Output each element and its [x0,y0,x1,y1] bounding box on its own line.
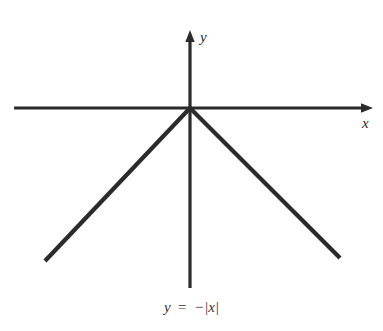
caption-expression: −|x| [194,299,219,315]
graph-figure: y x y = −|x| [0,0,383,331]
y-axis [185,30,194,288]
curve-path [45,108,340,261]
curve-y-equals-neg-abs-x [45,108,340,261]
caption-variable-y: y [164,299,171,315]
x-axis-arrow-icon [361,103,373,112]
figure-caption: y = −|x| [0,300,383,315]
caption-equals [171,299,179,315]
y-axis-arrow-icon [185,30,194,42]
y-axis-label: y [200,30,207,45]
caption-space-2 [187,299,195,315]
coordinate-plot [0,0,383,331]
x-axis-label: x [362,116,369,131]
caption-equals-sign: = [178,299,186,315]
